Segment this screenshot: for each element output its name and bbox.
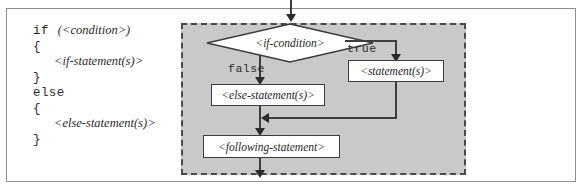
code-placeholder: (<condition>) xyxy=(49,23,130,37)
node-else-statement: <else-statement(s)> xyxy=(211,84,325,106)
code-line: <if-statement(s)> xyxy=(33,52,183,68)
code-keyword: else xyxy=(33,86,65,100)
merge-arrowhead-icon xyxy=(261,113,269,123)
code-keyword: { xyxy=(33,40,41,54)
code-keyword: if xyxy=(33,24,49,38)
node-following-statement: <following-statement> xyxy=(203,135,340,158)
node-following-statement-label: <following-statement> xyxy=(218,141,325,153)
spine-line-to-following xyxy=(259,106,261,130)
entry-arrowhead-icon xyxy=(286,14,296,22)
code-line: { xyxy=(33,99,183,115)
code-line: <else-statement(s)> xyxy=(33,114,183,130)
code-placeholder: <if-statement(s)> xyxy=(54,54,143,68)
code-listing: if(<condition>) { <if-statement(s)> } el… xyxy=(33,21,183,145)
node-statement: <statement(s)> xyxy=(348,60,444,82)
node-statement-label: <statement(s)> xyxy=(360,65,432,77)
code-placeholder: <else-statement(s)> xyxy=(54,116,156,130)
merge-line-vertical xyxy=(395,82,397,119)
code-line: else xyxy=(33,83,183,99)
false-branch-label: false xyxy=(228,62,265,75)
code-line: { xyxy=(33,37,183,53)
figure-if-else-flowchart: if(<condition>) { <if-statement(s)> } el… xyxy=(0,0,587,190)
code-line: } xyxy=(33,130,183,146)
node-else-statement-label: <else-statement(s)> xyxy=(221,89,314,101)
exit-arrowhead-icon xyxy=(255,170,265,178)
code-keyword: { xyxy=(33,102,41,116)
true-branch-label: true xyxy=(347,42,377,55)
code-line: } xyxy=(33,68,183,84)
code-keyword: } xyxy=(33,133,41,147)
merge-line-horizontal xyxy=(268,117,397,119)
code-line: if(<condition>) xyxy=(33,21,183,37)
